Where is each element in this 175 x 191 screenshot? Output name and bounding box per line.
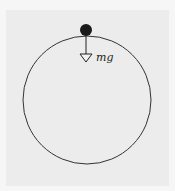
ball (80, 24, 92, 36)
free-body-diagram: mg (0, 0, 175, 191)
force-arrow-head-icon (80, 54, 92, 62)
force-label: mg (96, 51, 113, 64)
